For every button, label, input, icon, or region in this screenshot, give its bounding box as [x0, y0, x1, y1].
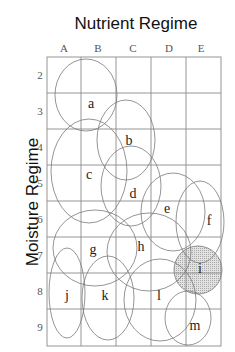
unit-label-a: a [88, 96, 95, 111]
column-label: E [198, 42, 205, 54]
unit-label-c: c [86, 167, 92, 182]
row-label: 8 [37, 285, 43, 297]
row-label: 7 [37, 249, 43, 261]
row-label: 5 [37, 177, 43, 189]
unit-label-g: g [90, 242, 97, 257]
edatopic-grid-diagram: Nutrient Regime Moisture Regime A B C D … [0, 0, 235, 352]
unit-label-h: h [138, 239, 145, 254]
column-label: B [94, 42, 101, 54]
unit-label-i: i [198, 261, 202, 276]
y-axis-title: Moisture Regime [23, 138, 42, 267]
unit-label-f: f [207, 213, 212, 228]
row-label: 3 [37, 105, 43, 117]
unit-label-k: k [102, 288, 109, 303]
row-label: 9 [37, 321, 43, 333]
unit-label-e: e [164, 201, 170, 216]
row-label: 6 [37, 213, 43, 225]
unit-label-b: b [126, 133, 133, 148]
unit-m-ellipse [165, 291, 211, 345]
unit-a-ellipse [55, 59, 117, 131]
unit-label-d: d [130, 186, 137, 201]
column-label: C [129, 42, 136, 54]
row-label: 4 [37, 141, 43, 153]
unit-ellipses [49, 59, 224, 345]
column-label: D [165, 42, 173, 54]
unit-label-j: j [64, 288, 69, 303]
x-axis-title: Nutrient Regime [75, 14, 198, 33]
column-label: A [60, 42, 68, 54]
unit-label-l: l [157, 288, 161, 303]
row-label: 2 [37, 69, 43, 81]
unit-label-m: m [190, 318, 201, 333]
